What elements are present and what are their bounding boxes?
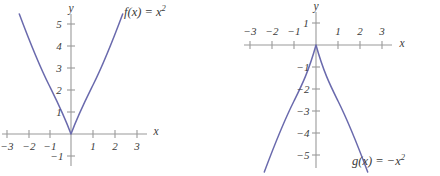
x-axis-label: x [153,126,158,138]
y-tick-label: −1 [51,151,64,162]
x-tick-label: 3 [379,26,385,37]
function-label-g: g(x) = −x2 [352,155,405,168]
x-axis-label: x [399,38,404,50]
y-axis-label: y [313,1,318,13]
y-tick-label: 1 [303,18,309,29]
figure-two-parabolas: x y −3 −2 −1 1 2 3 5 4 3 2 1 −1 f(x) = x… [0,0,440,176]
x-tick-label: 2 [112,141,118,152]
x-tick-label: −1 [288,26,301,37]
function-label-g-exponent: 2 [401,152,405,162]
x-tick-label: 3 [134,141,140,152]
function-label-g-text: g(x) = −x [352,154,401,168]
function-label-f-text: f(x) = x [124,5,162,19]
y-tick-label: 3 [56,63,62,74]
y-tick-label: −1 [297,62,310,73]
y-tick-label: −5 [297,150,310,161]
y-tick-label: −2 [297,84,310,95]
y-tick-label: 5 [56,19,62,30]
x-tick-label: 1 [90,141,96,152]
y-tick-label: −3 [297,106,310,117]
x-tick-label: −2 [266,26,279,37]
function-label-f-exponent: 2 [162,3,166,13]
function-label-f: f(x) = x2 [124,6,166,19]
y-tick-label: 1 [56,107,62,118]
x-tick-label: −3 [244,26,257,37]
y-tick-label: 4 [56,41,62,52]
y-tick-label: −4 [297,128,310,139]
plot-panel-f: x y −3 −2 −1 1 2 3 5 4 3 2 1 −1 f(x) = x… [0,0,220,176]
x-tick-label: −3 [1,141,14,152]
x-tick-label: 2 [357,26,363,37]
x-tick-label: −2 [23,141,36,152]
x-tick-label: 1 [335,26,341,37]
y-axis-label: y [68,3,73,15]
plot-panel-g: x y −3 −2 −1 1 2 3 1 −1 −2 −3 −4 −5 g(x)… [220,0,440,176]
y-tick-label: 2 [56,85,62,96]
